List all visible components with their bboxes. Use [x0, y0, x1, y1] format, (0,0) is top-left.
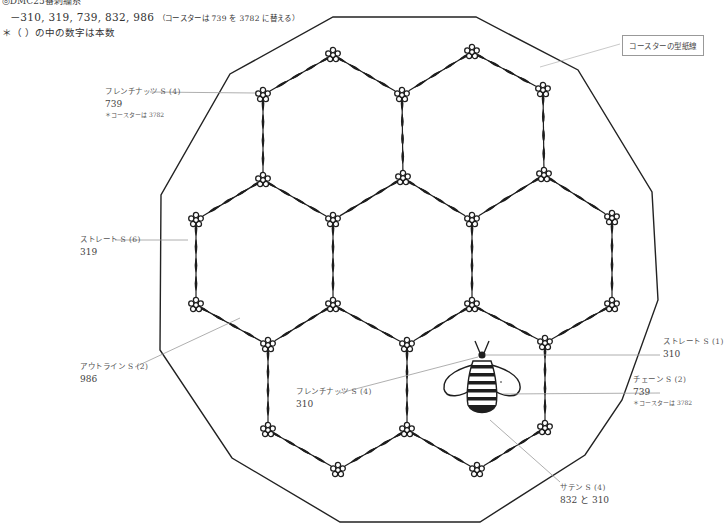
callout-stitch: サテン S (4)	[560, 484, 609, 492]
leaf-garland	[327, 221, 338, 297]
leaf-garland	[200, 176, 265, 221]
flower-icon	[261, 337, 276, 351]
leaf-garland	[266, 426, 334, 471]
callout-chain-wings: チェーン S (2) 739 ＊コースターは 3782	[633, 376, 692, 406]
leaf-garland	[406, 48, 474, 96]
leaf-garland	[537, 91, 549, 167]
leaf-garland	[262, 346, 273, 422]
callout-color: 739	[633, 388, 692, 397]
callout-stitch: ストレート S (6)	[80, 236, 141, 244]
bee-motif	[444, 341, 520, 419]
callout-color: 739	[105, 100, 181, 109]
leaf-garland	[405, 426, 473, 471]
leaf-garland	[481, 424, 547, 471]
flower-icon	[536, 82, 551, 96]
leaf-garland	[261, 176, 329, 221]
flower-icon	[189, 212, 204, 226]
leaf-garland	[476, 171, 546, 221]
leaf-garland	[267, 51, 335, 96]
leaf-garland	[272, 301, 335, 346]
flower-icon	[400, 422, 415, 436]
leaf-garland	[466, 221, 477, 297]
leaf-garland	[542, 171, 609, 219]
leaf-garland	[470, 300, 540, 344]
flower-icon	[400, 337, 415, 351]
flower-icon	[326, 47, 341, 61]
callout-color: 986	[80, 375, 149, 384]
leaf-garland	[190, 221, 201, 297]
flower-icon	[395, 87, 410, 101]
bee-head	[478, 351, 485, 358]
callout-color: 310	[663, 350, 724, 359]
flower-icon	[465, 212, 480, 226]
callout-note: ＊コースターは 3782	[633, 400, 692, 406]
flower-icon	[605, 297, 620, 311]
callout-french-knot-flowers: フレンチナッツ S (4) 739 ＊コースターは 3782	[105, 88, 181, 118]
flower-icon	[538, 335, 553, 349]
flower-icon	[465, 297, 480, 311]
callout-straight-antennae: ストレート S (1) 310	[663, 338, 724, 359]
leaf-garland	[337, 174, 405, 221]
flower-icon	[465, 44, 480, 58]
embroidery-diagram	[0, 0, 727, 525]
flower-icon	[189, 297, 204, 311]
flower-icon	[537, 167, 552, 181]
leaf-garland	[401, 346, 412, 422]
flower-icon	[396, 170, 411, 184]
callout-satin-body: サテン S (4) 832 と 310	[560, 484, 609, 505]
leaf-garland	[331, 51, 398, 96]
pattern-outline-label: コースターの型紙線	[622, 35, 704, 56]
flower-icon	[538, 420, 553, 434]
leaf-garland	[606, 219, 617, 297]
leaf-garland	[549, 301, 614, 344]
callout-note: ＊コースターは 3782	[105, 112, 181, 118]
leaf-garland	[257, 96, 268, 172]
leaf-garland	[342, 426, 409, 471]
bee-antenna-right	[484, 341, 489, 353]
flower-icon	[326, 212, 341, 226]
callout-stitch: チェーン S (2)	[633, 376, 692, 384]
callout-french-knot-bee-head: フレンチナッツ S (4) 310	[296, 388, 372, 409]
callout-straight-leaves: ストレート S (6) 319	[80, 236, 141, 257]
callout-color: 832 と 310	[560, 496, 609, 505]
leaf-garland	[411, 301, 474, 346]
french-knot-flowers	[189, 44, 620, 476]
flower-icon	[256, 172, 271, 186]
leaf-garland	[331, 300, 403, 346]
bee-antenna-left	[475, 341, 480, 353]
leaf-garlands	[190, 47, 617, 470]
callout-color: 319	[80, 248, 141, 257]
leaf-garland	[396, 96, 408, 170]
leaf-garland	[470, 47, 539, 91]
leaf-garland	[401, 174, 468, 221]
callout-stitch: フレンチナッツ S (4)	[105, 88, 181, 96]
flower-icon	[256, 87, 271, 101]
callout-stitch: アウトライン S (2)	[80, 363, 149, 371]
callout-color: 310	[296, 400, 372, 409]
flower-icon	[326, 297, 341, 311]
flower-icon	[470, 462, 485, 476]
flower-icon	[331, 462, 346, 476]
flower-icon	[605, 210, 620, 224]
callout-stitch: フレンチナッツ S (4)	[296, 388, 372, 396]
flower-icon	[261, 422, 276, 436]
callout-outline-stems: アウトライン S (2) 986	[80, 363, 149, 384]
callout-stitch: ストレート S (1)	[663, 338, 724, 346]
